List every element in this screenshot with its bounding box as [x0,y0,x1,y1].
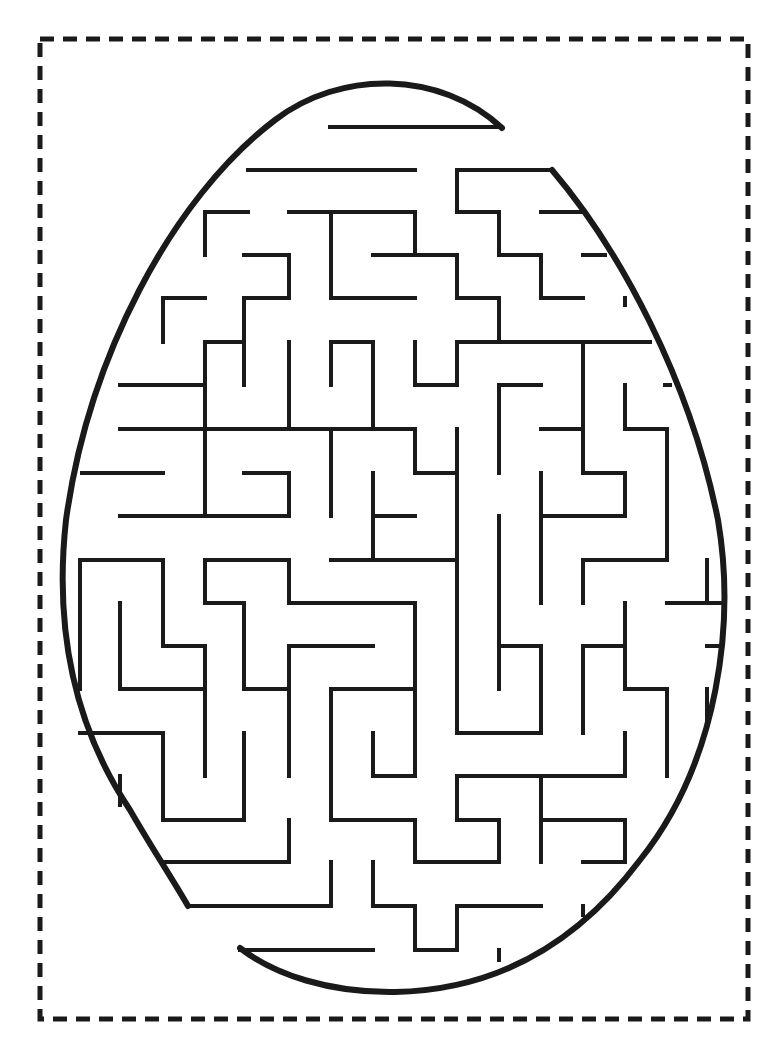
maze-worksheet [0,0,769,1058]
egg-maze-drawing [0,0,769,1058]
page-background [0,0,769,1058]
